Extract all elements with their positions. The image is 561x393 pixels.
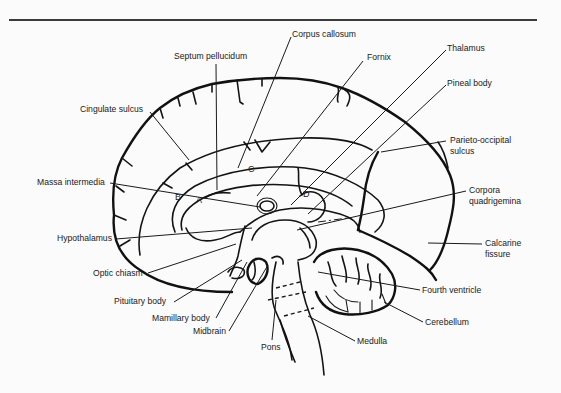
label-parieto-occipital-line2: sulcus bbox=[450, 146, 511, 157]
label-midbrain: Midbrain bbox=[193, 326, 226, 337]
label-cingulate-sulcus: Cingulate sulcus bbox=[80, 104, 143, 115]
region-letter-c: C bbox=[248, 164, 255, 174]
label-thalamus: Thalamus bbox=[447, 43, 485, 54]
label-parieto-occipital: Parieto-occipital sulcus bbox=[450, 135, 511, 156]
label-septum-pellucidum: Septum pellucidum bbox=[174, 51, 247, 62]
label-hypothalamus: Hypothalamus bbox=[57, 233, 112, 244]
label-parieto-occipital-line1: Parieto-occipital bbox=[450, 135, 511, 146]
label-massa-intermedia: Massa intermedia bbox=[37, 177, 105, 188]
label-calcarine-line2: fissure bbox=[485, 249, 521, 260]
brain-diagram-figure: Corpus callosum Septum pellucidum Fornix… bbox=[0, 0, 561, 393]
region-letter-b: B bbox=[175, 192, 181, 202]
label-corpus-callosum: Corpus callosum bbox=[292, 29, 356, 40]
brainstem-right bbox=[298, 262, 324, 375]
region-letter-a: A bbox=[196, 195, 202, 205]
massa-intermedia-shape bbox=[260, 201, 274, 211]
label-optic-chiasm: Optic chiasm bbox=[93, 268, 143, 279]
label-pineal-body: Pineal body bbox=[447, 78, 492, 89]
label-cerebellum: Cerebellum bbox=[425, 317, 469, 328]
corpus-callosum-outline bbox=[172, 167, 384, 232]
label-pituitary-body: Pituitary body bbox=[114, 296, 166, 307]
region-letter-d: D bbox=[303, 189, 310, 199]
pons-middle-boundary bbox=[268, 292, 306, 300]
label-fourth-ventricle: Fourth ventricle bbox=[422, 285, 481, 296]
cerebellum-outline bbox=[314, 249, 395, 315]
pons-upper-boundary bbox=[276, 282, 300, 288]
label-calcarine-fissure: Calcarine fissure bbox=[485, 238, 521, 259]
label-corpora-quadrigemina: Corpora quadrigemina bbox=[469, 185, 521, 206]
label-fornix: Fornix bbox=[367, 52, 391, 63]
label-medulla: Medulla bbox=[357, 336, 387, 347]
label-pons: Pons bbox=[261, 342, 281, 353]
label-calcarine-line1: Calcarine bbox=[485, 238, 521, 249]
label-mamillary-body: Mamillary body bbox=[152, 313, 210, 324]
label-corpora-line1: Corpora bbox=[469, 185, 521, 196]
label-corpora-line2: quadrigemina bbox=[469, 196, 521, 207]
